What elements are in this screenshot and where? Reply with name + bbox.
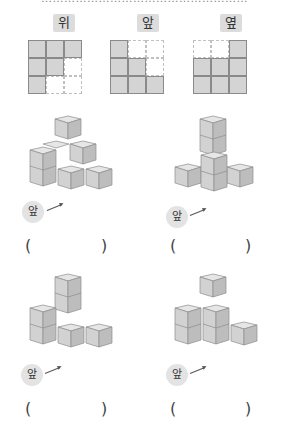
view-cell [146, 58, 164, 76]
view-cell [146, 76, 164, 94]
view-cell [146, 40, 164, 58]
view-cell [229, 40, 247, 58]
view-cell [211, 40, 229, 58]
view-label-top: 위 [53, 14, 75, 32]
view-cell [229, 76, 247, 94]
front-direction-arrow-icon [47, 204, 62, 211]
front-direction-label: 앞 [166, 206, 188, 228]
view-cell [110, 58, 128, 76]
view-cell [110, 40, 128, 58]
view-cell [193, 58, 211, 76]
cut-off-question-text: ……………………………………………… [0, 0, 289, 4]
view-cell [128, 76, 146, 94]
front-direction-arrow-icon [45, 367, 60, 374]
cube-stack-option-2[interactable] [170, 114, 270, 194]
answer-paren-open: ( [170, 399, 176, 418]
view-cell [28, 76, 46, 94]
answer-paren-open: ( [170, 236, 176, 255]
view-cell [229, 58, 247, 76]
view-cell [110, 76, 128, 94]
front-direction-arrow-icon [190, 209, 205, 216]
view-cell [193, 76, 211, 94]
front-direction-label: 앞 [166, 364, 188, 386]
view-cell [64, 76, 82, 94]
cube-stack-option-4[interactable] [170, 272, 270, 352]
answer-paren-close: ) [245, 399, 251, 418]
view-cell [128, 40, 146, 58]
cube-stack-option-3[interactable] [25, 272, 125, 352]
answer-paren-close: ) [101, 236, 107, 255]
view-cell [64, 58, 82, 76]
view-cell [46, 40, 64, 58]
front-direction-label: 앞 [22, 201, 44, 223]
answer-paren-close: ) [245, 236, 251, 255]
view-cell [28, 40, 46, 58]
view-cell [64, 40, 82, 58]
view-cell [193, 40, 211, 58]
answer-paren-open: ( [25, 236, 31, 255]
view-cell [211, 58, 229, 76]
view-cell [28, 58, 46, 76]
cube-stack-option-1[interactable] [25, 114, 125, 194]
answer-paren-open: ( [25, 399, 31, 418]
answer-paren-close: ) [101, 399, 107, 418]
view-cell [46, 76, 64, 94]
view-cell [211, 76, 229, 94]
view-label-front: 앞 [137, 14, 159, 32]
view-cell [128, 58, 146, 76]
view-cell [46, 58, 64, 76]
view-label-side: 옆 [220, 14, 242, 32]
front-direction-arrow-icon [190, 367, 205, 374]
front-direction-label: 앞 [21, 364, 43, 386]
